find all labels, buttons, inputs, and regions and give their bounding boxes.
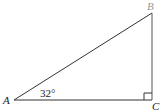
vertex-label-a: A bbox=[2, 94, 10, 106]
side-ab-hypotenuse bbox=[14, 13, 152, 100]
triangle-diagram: A B C 32° bbox=[0, 0, 160, 111]
angle-a-label: 32° bbox=[40, 87, 55, 99]
vertex-label-c: C bbox=[152, 100, 160, 111]
vertex-label-b: B bbox=[147, 0, 154, 12]
right-angle-marker bbox=[144, 93, 152, 100]
